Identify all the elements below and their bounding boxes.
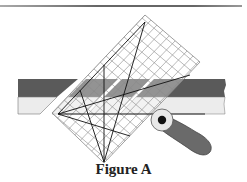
quilting-diagram: [0, 0, 247, 182]
figure-caption: Figure A: [0, 161, 247, 178]
rotary-cutter-icon: [151, 109, 211, 155]
